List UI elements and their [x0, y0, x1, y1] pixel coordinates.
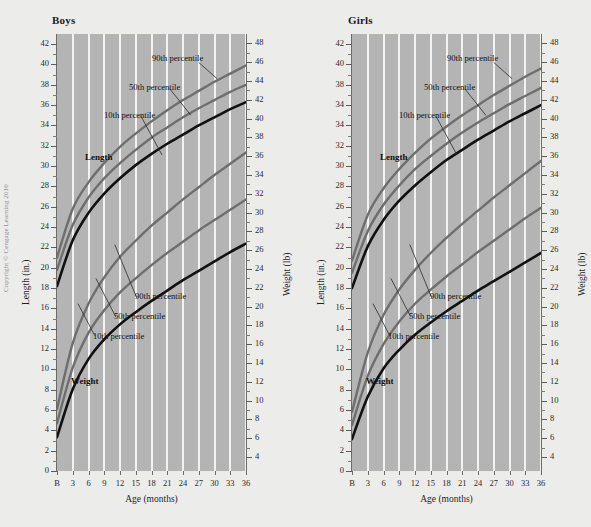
plot-area [352, 34, 541, 471]
label-weight-50th: 50th percentile [409, 311, 460, 321]
curve-length-90th-percentile [352, 69, 541, 261]
right-tick-major [246, 457, 252, 458]
left-axis-title: Length (in.) [316, 260, 326, 305]
right-ticklabel: 36 [550, 151, 572, 160]
right-tick-minor [541, 90, 545, 91]
left-ticklabel: 42 [25, 39, 49, 48]
right-tick-minor [246, 53, 250, 54]
left-tick-major [51, 227, 57, 228]
left-tick-minor [348, 319, 352, 320]
x-tick [57, 471, 58, 475]
right-tick-minor [246, 448, 250, 449]
right-tick-major [541, 43, 547, 44]
left-tick-minor [348, 115, 352, 116]
right-ticklabel: 12 [550, 377, 572, 386]
left-ticklabel: 40 [25, 59, 49, 68]
x-tick [399, 471, 400, 475]
left-tick-minor [53, 156, 57, 157]
right-tick-major [246, 269, 252, 270]
right-tick-minor [541, 184, 545, 185]
right-ticklabel: 22 [550, 283, 572, 292]
left-ticklabel: 4 [320, 425, 344, 434]
left-tick-minor [53, 461, 57, 462]
right-tick-major [246, 419, 252, 420]
left-tick-major [51, 288, 57, 289]
left-tick-minor [53, 95, 57, 96]
x-tick [136, 471, 137, 475]
right-tick-major [541, 119, 547, 120]
right-ticklabel: 48 [255, 38, 277, 47]
left-ticklabel: 4 [25, 425, 49, 434]
right-tick-minor [246, 90, 250, 91]
right-ticklabel: 40 [550, 114, 572, 123]
right-tick-major [246, 307, 252, 308]
left-tick-major [51, 166, 57, 167]
right-tick-minor [246, 222, 250, 223]
right-tick-major [246, 100, 252, 101]
x-tick [167, 471, 168, 475]
percentile-curves [352, 34, 541, 471]
left-tick-minor [53, 75, 57, 76]
left-tick-minor [348, 420, 352, 421]
left-ticklabel: 8 [25, 385, 49, 394]
left-tick-major [51, 369, 57, 370]
right-tick-minor [246, 297, 250, 298]
right-tick-minor [246, 184, 250, 185]
plot-area [57, 34, 246, 471]
label-weight-90th: 90th percentile [135, 291, 186, 301]
left-tick-major [346, 410, 352, 411]
right-tick-major [246, 438, 252, 439]
right-ticklabel: 20 [255, 302, 277, 311]
right-ticklabel: 24 [550, 264, 572, 273]
right-tick-minor [541, 260, 545, 261]
right-tick-major [246, 62, 252, 63]
x-tick [384, 471, 385, 475]
left-ticklabel: 14 [320, 324, 344, 333]
x-tick [541, 471, 542, 475]
x-tick [246, 471, 247, 475]
label-length-series: Length [85, 152, 113, 162]
left-tick-minor [53, 258, 57, 259]
left-ticklabel: 12 [320, 344, 344, 353]
label-weight-10th: 10th percentile [93, 331, 144, 341]
right-tick-minor [541, 241, 545, 242]
right-tick-minor [541, 391, 545, 392]
right-tick-major [541, 401, 547, 402]
left-tick-major [51, 44, 57, 45]
right-ticklabel: 20 [550, 302, 572, 311]
right-ticklabel: 44 [255, 76, 277, 85]
left-tick-major [346, 430, 352, 431]
left-ticklabel: 24 [320, 222, 344, 231]
right-ticklabel: 6 [255, 433, 277, 442]
right-ticklabel: 32 [255, 189, 277, 198]
label-length-50th: 50th percentile [129, 82, 180, 92]
left-tick-minor [348, 176, 352, 177]
right-tick-major [246, 194, 252, 195]
right-ticklabel: 22 [255, 283, 277, 292]
right-tick-major [541, 438, 547, 439]
left-ticklabel: 30 [25, 161, 49, 170]
right-ticklabel: 40 [255, 114, 277, 123]
left-tick-major [346, 125, 352, 126]
right-tick-major [246, 250, 252, 251]
left-ticklabel: 30 [320, 161, 344, 170]
left-tick-major [51, 308, 57, 309]
left-tick-major [346, 186, 352, 187]
label-weight-90th: 90th percentile [430, 291, 481, 301]
right-tick-major [246, 213, 252, 214]
left-tick-major [346, 247, 352, 248]
right-tick-major [246, 175, 252, 176]
left-tick-major [51, 390, 57, 391]
left-ticklabel: 2 [320, 446, 344, 455]
label-length-series: Length [380, 152, 408, 162]
left-tick-minor [348, 54, 352, 55]
x-ticklabel: 36 [531, 478, 551, 488]
right-tick-minor [541, 203, 545, 204]
left-tick-minor [53, 441, 57, 442]
x-tick [89, 471, 90, 475]
left-tick-major [51, 85, 57, 86]
right-ticklabel: 44 [550, 76, 572, 85]
right-tick-minor [246, 354, 250, 355]
right-ticklabel: 38 [550, 132, 572, 141]
right-tick-major [541, 213, 547, 214]
